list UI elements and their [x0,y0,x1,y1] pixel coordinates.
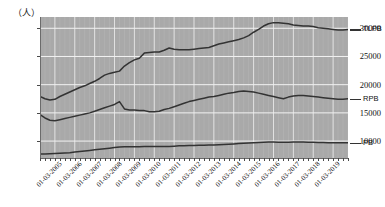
x-axis-tick-mark [110,158,111,161]
x-axis-tick-mark [115,158,116,161]
x-axis-tick-mark [164,158,165,161]
x-axis-tick-mark [249,158,250,161]
x-axis-tick-mark [189,158,190,161]
x-axis-tick-mark [149,158,150,161]
x-axis-tick-mark [254,158,255,161]
x-axis-tick-mark [209,158,210,161]
x-axis-tick-mark [318,158,319,161]
x-axis-tick-mark [204,158,205,161]
x-axis-tick-mark [159,158,160,161]
x-axis-tick-mark [105,158,106,161]
x-axis-tick-mark [124,158,125,161]
legend-line-pb [350,143,361,145]
plot-area [40,17,348,158]
x-axis-tick-mark [338,158,339,161]
x-axis-tick-mark [303,158,304,161]
x-axis-tick-mark [144,158,145,161]
x-axis-tick-mark [308,158,309,161]
x-axis-tick-mark [348,158,349,161]
x-axis-tick-mark [229,158,230,161]
x-axis-tick-mark [283,158,284,161]
x-axis-tick-mark [328,158,329,161]
x-axis-tick-mark [278,158,279,161]
x-axis-tick-mark [85,158,86,161]
legend-line-rpb [350,99,361,101]
legend-label-tlpb: TLPB [363,24,382,33]
x-axis-tick-mark [298,158,299,161]
x-axis-tick-mark [199,158,200,161]
series-lines [40,17,348,158]
x-axis-tick-mark [70,158,71,161]
x-axis-tick-mark [90,158,91,161]
y-axis-unit-label: （人） [13,6,40,19]
x-axis-tick-mark [169,158,170,161]
x-axis-tick-mark [50,158,51,161]
x-axis-tick-mark [343,158,344,161]
legend-label-pb: PB [363,138,373,147]
y-axis-tick-label: 20000 [343,80,385,90]
chart-root: （人） 1000015000200002500030000 01-03-2005… [0,0,385,207]
y-axis-tick-label: 25000 [343,51,385,61]
x-axis-tick-mark [40,158,41,161]
x-axis-tick-mark [269,158,270,161]
x-axis-tick-mark [224,158,225,161]
x-axis-tick-mark [129,158,130,161]
legend-label-rpb: RPB [363,94,378,103]
x-axis-tick-mark [184,158,185,161]
x-axis-tick-mark [244,158,245,161]
x-axis-tick-mark [179,158,180,161]
x-axis-tick-mark [288,158,289,161]
legend-line-tlpb [350,29,361,31]
x-axis-tick-mark [264,158,265,161]
x-axis-tick-mark [323,158,324,161]
x-axis-tick-mark [45,158,46,161]
x-axis-tick-mark [65,158,66,161]
x-axis-tick-mark [139,158,140,161]
y-axis-tick-label: 15000 [343,108,385,118]
